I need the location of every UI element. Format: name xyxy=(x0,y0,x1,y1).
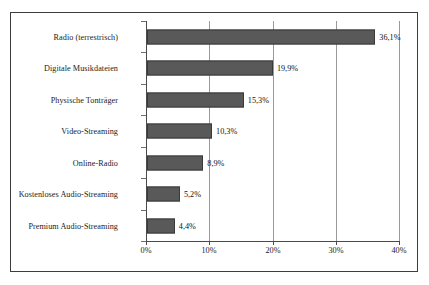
category-label: Kostenloses Audio-Streaming xyxy=(19,190,118,199)
x-axis-label: 10% xyxy=(201,246,216,255)
chart-figure: Radio (terrestrisch) 36,1% Digitale Musi… xyxy=(10,12,418,272)
x-axis-label: 20% xyxy=(265,246,280,255)
category-label: Physische Tonträger xyxy=(51,96,118,105)
bar-value-label: 15,3% xyxy=(248,96,269,105)
category-label: Digitale Musikdateien xyxy=(44,64,118,73)
bar-row: Kostenloses Audio-Streaming 5,2% xyxy=(11,180,417,208)
x-axis-tick xyxy=(209,241,210,245)
bar-row: Online-Radio 8,9% xyxy=(11,149,417,177)
bar-row: Radio (terrestrisch) 36,1% xyxy=(11,23,417,51)
x-axis-tick xyxy=(399,241,400,245)
x-axis-label: 0% xyxy=(141,246,152,255)
x-axis-tick xyxy=(273,241,274,245)
bar[interactable] xyxy=(147,93,244,108)
bar-row: Physische Tonträger 15,3% xyxy=(11,86,417,114)
bar-value-label: 19,9% xyxy=(277,64,298,73)
category-label: Radio (terrestrisch) xyxy=(54,33,118,42)
category-label: Video-Streaming xyxy=(61,127,118,136)
x-axis-tick xyxy=(336,241,337,245)
y-axis-tick xyxy=(141,52,146,53)
bar-row: Digitale Musikdateien 19,9% xyxy=(11,54,417,82)
bar[interactable] xyxy=(147,124,212,139)
bar-value-label: 5,2% xyxy=(184,190,201,199)
bar[interactable] xyxy=(147,61,273,76)
bar[interactable] xyxy=(147,219,175,234)
bar-row: Premium Audio-Streaming 4,4% xyxy=(11,212,417,240)
bar-value-label: 4,4% xyxy=(179,222,196,231)
y-axis-tick xyxy=(141,84,146,85)
bar[interactable] xyxy=(147,30,375,45)
y-axis-tick xyxy=(141,21,146,22)
bar-value-label: 8,9% xyxy=(207,159,224,168)
bar-value-label: 36,1% xyxy=(379,33,400,42)
bar-value-label: 10,3% xyxy=(216,127,237,136)
x-axis-label: 30% xyxy=(328,246,343,255)
bar[interactable] xyxy=(147,156,203,171)
y-axis-tick xyxy=(141,210,146,211)
category-label: Premium Audio-Streaming xyxy=(28,222,118,231)
y-axis-tick xyxy=(141,115,146,116)
bar-row: Video-Streaming 10,3% xyxy=(11,117,417,145)
x-axis-label: 40% xyxy=(391,246,406,255)
y-axis-tick xyxy=(141,178,146,179)
y-axis-tick xyxy=(141,147,146,148)
x-axis-tick xyxy=(146,241,147,245)
bar[interactable] xyxy=(147,187,180,202)
category-label: Online-Radio xyxy=(73,159,118,168)
